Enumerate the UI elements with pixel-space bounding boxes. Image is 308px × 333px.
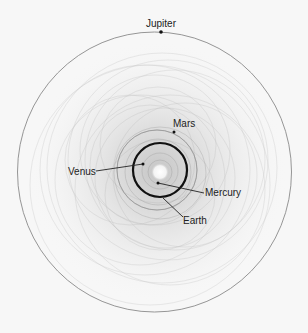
earth-label: Earth	[183, 216, 207, 226]
mercury-dot	[157, 182, 160, 185]
mercury-label: Mercury	[205, 188, 241, 198]
mars-label: Mars	[173, 119, 195, 129]
orbit-diagram	[0, 0, 308, 333]
venus-label: Venus	[68, 167, 96, 177]
jupiter-dot	[159, 30, 163, 34]
sun-glow	[151, 163, 169, 181]
venus-dot	[142, 163, 145, 166]
jupiter-label: Jupiter	[146, 19, 176, 29]
mars-dot	[173, 131, 176, 134]
